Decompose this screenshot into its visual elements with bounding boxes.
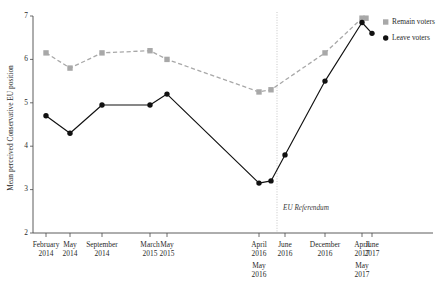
y-tick-label: 5	[24, 98, 28, 107]
data-point-remain-voters-4	[164, 57, 169, 62]
data-point-leave-voters-7	[282, 152, 287, 157]
x-tick-label: 2016	[252, 270, 267, 279]
data-point-remain-voters-6	[268, 87, 273, 92]
x-tick-label: May	[252, 261, 266, 270]
x-tick-label: 2014	[63, 249, 78, 258]
x-tick-label: February	[33, 240, 60, 249]
x-tick-label: 2016	[252, 249, 267, 258]
y-tick-label: 4	[24, 141, 28, 150]
data-point-remain-voters-7	[322, 50, 327, 55]
y-tick-label: 6	[24, 54, 28, 63]
data-point-remain-voters-3	[147, 48, 152, 53]
x-tick-label: May	[63, 240, 77, 249]
x-tick-label: December	[310, 240, 341, 249]
eu-position-line-chart: 234567 February2014May2014September2014M…	[0, 0, 441, 292]
data-point-remain-voters-1	[67, 65, 72, 70]
x-tick-label: 2016	[318, 249, 333, 258]
legend-label-remain-voters: Remain voters	[392, 17, 435, 26]
y-tick-label: 7	[24, 11, 28, 20]
x-tick-label: March	[140, 240, 160, 249]
x-tick-label: 2014	[95, 249, 110, 258]
series-line-leave-voters	[46, 23, 372, 184]
data-point-leave-voters-1	[67, 130, 72, 135]
legend-marker-leave	[383, 35, 388, 40]
x-tick-label: May	[160, 240, 174, 249]
data-point-leave-voters-10	[369, 31, 374, 36]
x-tick-label: 2017	[355, 270, 370, 279]
data-point-remain-voters-5	[256, 89, 261, 94]
legend-label-leave-voters: Leave voters	[392, 33, 430, 42]
x-tick-label: April	[251, 240, 267, 249]
data-point-leave-voters-2	[99, 102, 104, 107]
x-tick-label: 2014	[39, 249, 54, 258]
data-point-leave-voters-9	[359, 20, 364, 25]
data-point-leave-voters-5	[256, 180, 261, 185]
eu-referendum-label: EU Referendum	[282, 204, 329, 212]
y-tick-label: 3	[24, 184, 28, 193]
chart-container: 234567 February2014May2014September2014M…	[0, 0, 441, 292]
x-tick-label: 2016	[278, 249, 293, 258]
series-line-remain-voters	[46, 18, 366, 92]
data-point-leave-voters-4	[164, 91, 169, 96]
x-tick-label: June	[278, 240, 292, 249]
y-axis: 234567	[24, 11, 33, 237]
x-tick-label: June	[365, 240, 379, 249]
data-point-remain-voters-0	[43, 50, 48, 55]
data-point-leave-voters-6	[268, 178, 273, 183]
x-tick-label: September	[86, 240, 118, 249]
data-point-remain-voters-2	[99, 50, 104, 55]
data-point-remain-voters-9	[363, 15, 368, 20]
y-axis-title: Mean perceived Conservative EU position	[6, 65, 15, 191]
data-point-leave-voters-3	[147, 102, 152, 107]
x-tick-label: 2015	[143, 249, 158, 258]
y-tick-label: 2	[24, 228, 28, 237]
x-axis: February2014May2014September2014March201…	[33, 233, 433, 279]
data-point-leave-voters-8	[322, 78, 327, 83]
x-tick-label: 2017	[365, 249, 380, 258]
data-point-leave-voters-0	[43, 113, 48, 118]
legend-marker-remain	[383, 19, 388, 24]
chart-legend: Remain votersLeave voters	[383, 17, 435, 42]
x-tick-label: 2015	[160, 249, 175, 258]
x-tick-label: May	[355, 261, 369, 270]
series-layer	[43, 15, 374, 185]
